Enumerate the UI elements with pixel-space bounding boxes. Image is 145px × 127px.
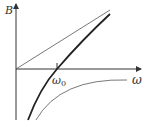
diagram-canvas: B ω ω0 [0,0,145,127]
omega0-subscript: 0 [61,79,66,88]
omega0-label: ω0 [52,74,66,88]
lower-curve [36,80,127,120]
straight-line-curve [16,10,110,69]
x-axis-label: ω [132,73,142,87]
y-axis-label: B [4,4,13,17]
thick-curve [28,14,110,120]
